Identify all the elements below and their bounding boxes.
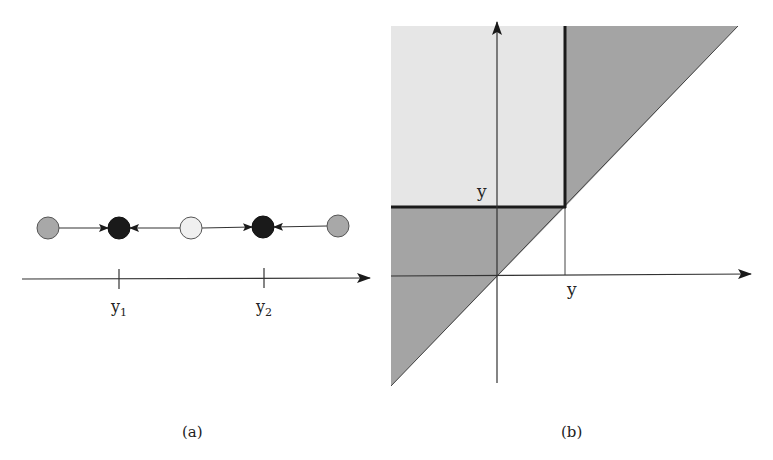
- tick-label-y1: y1: [110, 297, 127, 319]
- light-region: [391, 26, 565, 207]
- unstable-node-middle: [180, 217, 202, 239]
- horizontal-axis-a: [22, 278, 370, 279]
- panel-b: y y (b): [391, 22, 751, 441]
- stable-node-y2: [252, 216, 274, 238]
- caption-a: (a): [182, 423, 203, 441]
- caption-b: (b): [561, 423, 582, 441]
- x-axis-value-label: y: [566, 279, 577, 299]
- tick-label-y2: y2: [255, 297, 272, 319]
- unstable-node-left: [37, 217, 59, 239]
- figure-canvas: y1 y2 (a) y y (b): [0, 0, 773, 460]
- arrow-gray-to-y2: [274, 226, 327, 227]
- y-axis-value-label: y: [476, 181, 487, 201]
- arrow-white-to-y2: [202, 227, 252, 228]
- panel-a: y1 y2 (a): [22, 215, 370, 441]
- stable-node-y1: [108, 217, 130, 239]
- unstable-node-right: [327, 215, 349, 237]
